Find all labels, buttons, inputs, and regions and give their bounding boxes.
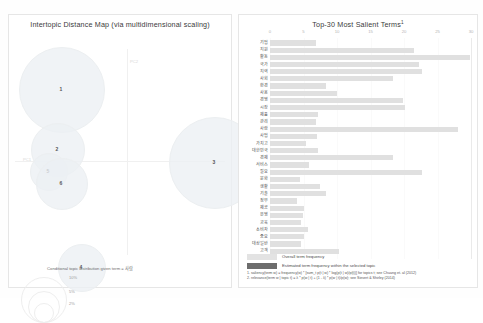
topic-number-2: 2 <box>56 146 59 152</box>
bar-term-label[interactable]: 가치고 <box>256 141 268 147</box>
bar-row[interactable]: 소비자 <box>239 227 471 233</box>
topic-number-1: 1 <box>60 86 63 92</box>
bar-row[interactable]: 지역 <box>239 69 471 75</box>
bar-row[interactable]: 사회 <box>239 76 471 82</box>
bar-row[interactable]: 관리 <box>239 119 471 125</box>
bar-overall-frequency <box>270 170 422 175</box>
axis-label-pc2: PC2 <box>130 59 138 64</box>
bar-term-label[interactable]: 제품 <box>260 112 268 118</box>
legend-row-overall: Overall term frequency <box>247 253 473 261</box>
map-title: Intertopic Distance Map (via multidimens… <box>9 20 231 29</box>
bar-row[interactable]: 활동 <box>239 54 471 60</box>
bar-term-label[interactable]: 정부 <box>260 198 268 204</box>
bar-chart-title: Top-30 Most Salient Terms1 <box>239 20 477 29</box>
bar-term-label[interactable]: 경영 <box>260 97 268 103</box>
bar-term-label[interactable]: 시장 <box>260 105 268 111</box>
bar-term-label[interactable]: 생활 <box>260 184 268 190</box>
bar-term-label[interactable]: 지원 <box>260 47 268 53</box>
legend-label-selected: Estimated term frequency within the sele… <box>282 262 375 270</box>
bar-term-label[interactable]: 문화 <box>260 176 268 182</box>
bar-overall-frequency <box>270 62 419 67</box>
bar-row[interactable]: 운영 <box>239 212 471 218</box>
bar-row[interactable]: 사업 <box>239 133 471 139</box>
bar-term-label[interactable]: 교육 <box>260 220 268 226</box>
bar-overall-frequency <box>270 141 306 146</box>
bar-row[interactable]: 가치고 <box>239 141 471 147</box>
bar-overall-frequency <box>270 227 308 232</box>
bar-term-label[interactable]: 기업 <box>260 40 268 46</box>
bar-overall-frequency <box>270 105 405 110</box>
bar-term-label[interactable]: 사람 <box>260 126 268 132</box>
bar-row[interactable]: 교육 <box>239 220 471 226</box>
x-tick-15: 15 <box>368 29 373 34</box>
x-tick-20: 20 <box>402 29 407 34</box>
bar-overall-frequency <box>270 55 470 60</box>
bar-term-label[interactable]: 활동 <box>260 54 268 60</box>
bar-row[interactable]: 기술 <box>239 191 471 197</box>
bar-overall-frequency <box>270 206 304 211</box>
bar-term-label[interactable]: 대한민국 <box>252 148 268 154</box>
bar-overall-frequency <box>270 40 316 45</box>
bar-overall-frequency <box>270 69 422 74</box>
bar-row[interactable]: 서비스 <box>239 162 471 168</box>
size-legend-circle-10pct <box>21 277 67 323</box>
plot-right-border <box>471 38 472 259</box>
bar-row[interactable]: 사람 <box>239 126 471 132</box>
bar-term-label[interactable]: 기술 <box>260 191 268 197</box>
bar-overall-frequency <box>270 119 316 124</box>
bar-term-label[interactable]: 사업 <box>260 133 268 139</box>
bar-row[interactable]: 제품 <box>239 112 471 118</box>
bar-row[interactable]: 생활 <box>239 184 471 190</box>
bar-overall-frequency <box>270 134 317 139</box>
bar-row[interactable]: 기업 <box>239 40 471 46</box>
bar-term-label[interactable]: 사용 <box>260 90 268 96</box>
bar-term-label[interactable]: 대상일반 <box>252 241 268 247</box>
map-plot-area[interactable]: PC1 PC2 125634 2%5%10% Conditional topic… <box>9 31 231 287</box>
x-tick-5: 5 <box>302 29 304 34</box>
bar-row[interactable]: 시장 <box>239 105 471 111</box>
size-legend-label-2pct: 2% <box>69 301 75 306</box>
bar-row[interactable]: 경영 <box>239 97 471 103</box>
bar-term-label[interactable]: 서비스 <box>256 162 268 168</box>
bar-overall-frequency <box>270 241 301 246</box>
bar-row[interactable]: 대상일반 <box>239 241 471 247</box>
x-axis-ticks: 051015202530 <box>239 29 477 38</box>
bar-row[interactable]: 중요 <box>239 234 471 240</box>
bar-row[interactable]: 필요 <box>239 169 471 175</box>
bar-term-label[interactable]: 소비자 <box>256 227 268 233</box>
size-legend-label-10pct: 10% <box>69 275 77 280</box>
bar-overall-frequency <box>270 191 326 196</box>
bar-row[interactable]: 지원 <box>239 47 471 53</box>
bar-overall-frequency <box>270 91 337 96</box>
bar-overall-frequency <box>270 155 393 160</box>
footnote-relevance: 2. relevance(term w | topic t) = λ * p(w… <box>247 276 473 281</box>
bar-term-label[interactable]: 사회 <box>260 76 268 82</box>
bar-term-label[interactable]: 환경 <box>260 83 268 89</box>
bar-term-label[interactable]: 제공 <box>260 205 268 211</box>
bar-term-label[interactable]: 경제 <box>260 155 268 161</box>
bar-term-label[interactable]: 지역 <box>260 69 268 75</box>
bar-row[interactable]: 환경 <box>239 83 471 89</box>
bar-term-label[interactable]: 관리 <box>260 119 268 125</box>
bar-chart-plot-area: 051015202530 기업지원활동국가지역사회환경사용경영시장제품관리사람사… <box>239 29 477 259</box>
bar-row[interactable]: 사용 <box>239 90 471 96</box>
bar-term-label[interactable]: 국가 <box>260 62 268 68</box>
bar-row[interactable]: 경제 <box>239 155 471 161</box>
bar-overall-frequency <box>270 234 304 239</box>
x-tick-0: 0 <box>269 29 271 34</box>
bar-row[interactable]: 대한민국 <box>239 148 471 154</box>
bar-overall-frequency <box>270 76 393 81</box>
x-tick-10: 10 <box>335 29 340 34</box>
bar-overall-frequency <box>270 127 458 132</box>
bar-row[interactable]: 국가 <box>239 62 471 68</box>
bar-overall-frequency <box>270 198 297 203</box>
bar-row[interactable]: 제공 <box>239 205 471 211</box>
bar-row[interactable]: 문화 <box>239 176 471 182</box>
x-tick-25: 25 <box>435 29 440 34</box>
bar-term-label[interactable]: 운영 <box>260 212 268 218</box>
bar-term-label[interactable]: 필요 <box>260 169 268 175</box>
intertopic-distance-map-panel: Intertopic Distance Map (via multidimens… <box>8 14 232 288</box>
bar-term-label[interactable]: 중요 <box>260 234 268 240</box>
bar-row[interactable]: 정부 <box>239 198 471 204</box>
